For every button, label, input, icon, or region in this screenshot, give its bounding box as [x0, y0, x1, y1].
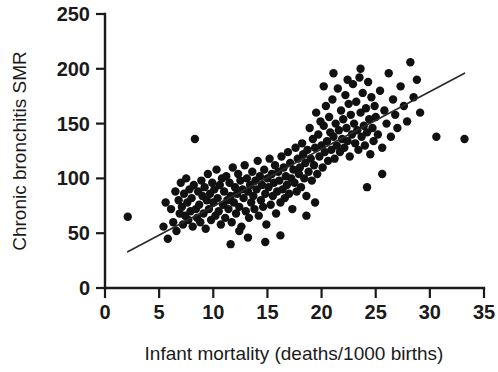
data-point: [387, 133, 395, 141]
y-tick-label-150: 150: [57, 113, 90, 135]
data-point: [164, 234, 172, 242]
regression-trendline: [128, 73, 465, 252]
data-point: [196, 218, 204, 226]
data-point: [359, 89, 367, 97]
data-point: [364, 78, 372, 86]
data-point: [213, 194, 221, 202]
y-tick-label-100: 100: [57, 167, 90, 189]
data-point: [262, 220, 270, 228]
data-point: [212, 165, 220, 173]
data-point: [187, 194, 195, 202]
data-point: [329, 69, 337, 77]
data-point: [370, 102, 378, 110]
data-point: [352, 97, 360, 105]
data-point: [167, 205, 175, 213]
data-point: [311, 198, 319, 206]
scatter-plot-figure: 050100150200250 05101520253035 Infant mo…: [0, 0, 498, 372]
data-point: [376, 87, 384, 95]
data-point: [261, 238, 269, 246]
data-point: [346, 152, 354, 160]
data-point: [191, 135, 199, 143]
data-point: [341, 91, 349, 99]
data-point: [389, 95, 397, 103]
data-point: [403, 117, 411, 125]
data-point: [378, 144, 386, 152]
data-point: [248, 168, 256, 176]
y-axis-title: Chronic bronchitis SMR: [9, 51, 30, 251]
data-point: [284, 148, 292, 156]
data-point: [385, 69, 393, 77]
data-point: [335, 126, 343, 134]
data-point: [253, 157, 261, 165]
data-point: [329, 133, 337, 141]
data-point: [304, 168, 312, 176]
data-point: [224, 205, 232, 213]
data-point: [285, 190, 293, 198]
x-tick-label-15: 15: [256, 301, 278, 323]
chart-canvas: 050100150200250 05101520253035 Infant mo…: [0, 0, 498, 372]
data-point: [314, 130, 322, 138]
x-axis-ticks: [105, 288, 484, 298]
data-point: [288, 205, 296, 213]
data-point: [406, 58, 414, 66]
data-point: [171, 187, 179, 195]
x-tick-label-35: 35: [473, 301, 495, 323]
data-point: [344, 100, 352, 108]
y-axis-tick-labels: 050100150200250: [57, 3, 90, 299]
y-tick-label-0: 0: [79, 277, 90, 299]
data-point: [367, 93, 375, 101]
data-point: [356, 65, 364, 73]
data-point: [330, 154, 338, 162]
data-point: [355, 73, 363, 81]
data-point: [393, 124, 401, 132]
data-point: [244, 233, 252, 241]
data-point: [229, 163, 237, 171]
data-point: [240, 161, 248, 169]
x-tick-label-30: 30: [419, 301, 441, 323]
x-axis-title: Infant mortality (deaths/1000 births): [145, 343, 444, 364]
data-point: [298, 139, 306, 147]
y-tick-label-250: 250: [57, 3, 90, 25]
data-point: [378, 170, 386, 178]
data-point: [302, 192, 310, 200]
data-point: [334, 84, 342, 92]
data-point: [124, 213, 132, 221]
data-point: [204, 170, 212, 178]
y-axis-ticks: [96, 14, 105, 288]
data-point: [169, 218, 177, 226]
data-point: [363, 183, 371, 191]
data-point: [366, 150, 374, 158]
x-tick-label-0: 0: [99, 301, 110, 323]
data-point: [339, 115, 347, 123]
data-point: [320, 122, 328, 130]
data-point: [226, 240, 234, 248]
data-point: [328, 95, 336, 103]
data-point: [396, 82, 404, 90]
data-point: [325, 113, 333, 121]
y-tick-label-200: 200: [57, 58, 90, 80]
data-point: [303, 146, 311, 154]
x-tick-label-5: 5: [154, 301, 165, 323]
data-point: [382, 119, 390, 127]
data-point: [361, 141, 369, 149]
data-point: [362, 104, 370, 112]
data-point: [310, 161, 318, 169]
x-tick-label-25: 25: [365, 301, 387, 323]
data-point: [302, 211, 310, 219]
scatter-points: [124, 58, 469, 248]
data-point: [318, 163, 326, 171]
data-point: [245, 214, 253, 222]
data-point: [255, 211, 263, 219]
data-point: [200, 183, 208, 191]
data-point: [161, 198, 169, 206]
data-point: [305, 124, 313, 132]
data-point: [322, 102, 330, 110]
data-point: [266, 201, 274, 209]
data-point: [272, 209, 280, 217]
data-point: [342, 124, 350, 132]
data-point: [159, 222, 167, 230]
data-point: [227, 218, 235, 226]
x-tick-label-10: 10: [202, 301, 224, 323]
data-point: [195, 201, 203, 209]
data-point: [189, 222, 197, 230]
